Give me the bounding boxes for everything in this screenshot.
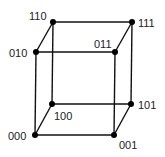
label-001: 001 — [119, 139, 137, 151]
vertex-101 — [128, 101, 134, 107]
vertex-011 — [112, 49, 118, 55]
edge-000-100 — [35, 104, 52, 135]
edge-001-011 — [114, 52, 115, 135]
vertex-111 — [129, 19, 135, 25]
edge-011-111 — [115, 22, 132, 52]
vertex-100 — [49, 101, 55, 107]
label-110: 110 — [29, 10, 47, 22]
label-000: 000 — [8, 130, 26, 142]
label-111: 111 — [138, 17, 155, 29]
edge-001-101 — [114, 104, 131, 135]
hypercube-diagram: 110 111 010 011 100 101 000 001 — [0, 0, 165, 157]
vertex-110 — [50, 19, 56, 25]
edge-000-010 — [35, 52, 36, 135]
label-101: 101 — [138, 99, 156, 111]
edge-010-110 — [36, 22, 53, 52]
label-010: 010 — [9, 47, 27, 59]
label-011: 011 — [94, 38, 112, 50]
vertex-010 — [33, 49, 39, 55]
vertex-001 — [111, 132, 117, 138]
edge-101-111 — [131, 22, 132, 104]
edge-100-110 — [52, 22, 53, 104]
vertex-000 — [32, 132, 38, 138]
label-100: 100 — [54, 110, 72, 122]
